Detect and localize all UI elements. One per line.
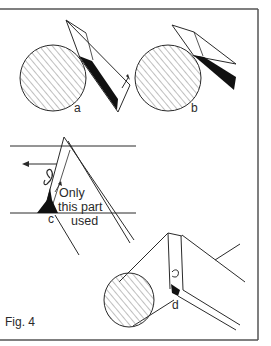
panel-c: c Only this part used — [10, 137, 136, 255]
shaving-d — [171, 284, 180, 296]
figure-caption: Fig. 4 — [5, 315, 35, 329]
panel-b: b — [135, 25, 236, 115]
tool-d — [168, 233, 240, 330]
direction-arrow — [22, 161, 57, 167]
label-d: d — [172, 298, 179, 312]
panel-d: d — [104, 233, 245, 330]
cylinder-end — [104, 273, 154, 327]
cylinder-d — [104, 233, 245, 327]
annotation-line2: this part — [58, 200, 103, 214]
annotation-line3: used — [71, 214, 98, 228]
label-c: c — [48, 212, 54, 226]
panel-a: a — [20, 20, 130, 115]
label-b: b — [191, 101, 198, 115]
label-a: a — [74, 101, 81, 115]
annotation-line1: Only — [59, 186, 85, 200]
figure-4-diagram: a b c Only this part used — [0, 0, 271, 346]
shaving-curl — [44, 169, 52, 184]
